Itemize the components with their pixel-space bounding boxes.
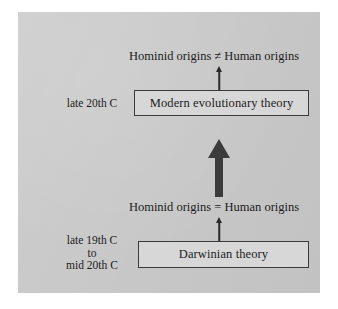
arrow-modern-theory-to-statement-icon bbox=[211, 66, 227, 91]
statement-hominid-equals-human: Hominid origins = Human origins bbox=[114, 200, 314, 215]
thick-transition-arrow-icon bbox=[204, 139, 234, 197]
arrow-shaft bbox=[218, 221, 220, 242]
box-modern-evolutionary-theory: Modern evolutionary theory bbox=[134, 90, 309, 116]
arrow-darwinian-theory-to-statement-icon bbox=[211, 217, 227, 242]
statement-hominid-not-equal-human: Hominid origins ≠ Human origins bbox=[114, 49, 314, 64]
box-modern-evolutionary-theory-label: Modern evolutionary theory bbox=[150, 96, 294, 111]
era-label-late-20th-century: late 20th C bbox=[54, 97, 130, 110]
arrow-shaft bbox=[218, 70, 220, 91]
evolutionary-theory-diagram: Hominid origins ≠ Human origins late 20t… bbox=[0, 0, 338, 309]
box-darwinian-theory-label: Darwinian theory bbox=[179, 247, 268, 262]
era-label-late-19th-to-mid-20th-century: late 19th C to mid 20th C bbox=[50, 234, 134, 272]
thick-arrow-shaft bbox=[215, 156, 223, 197]
diagram-panel: Hominid origins ≠ Human origins late 20t… bbox=[18, 12, 320, 293]
box-darwinian-theory: Darwinian theory bbox=[138, 241, 309, 268]
